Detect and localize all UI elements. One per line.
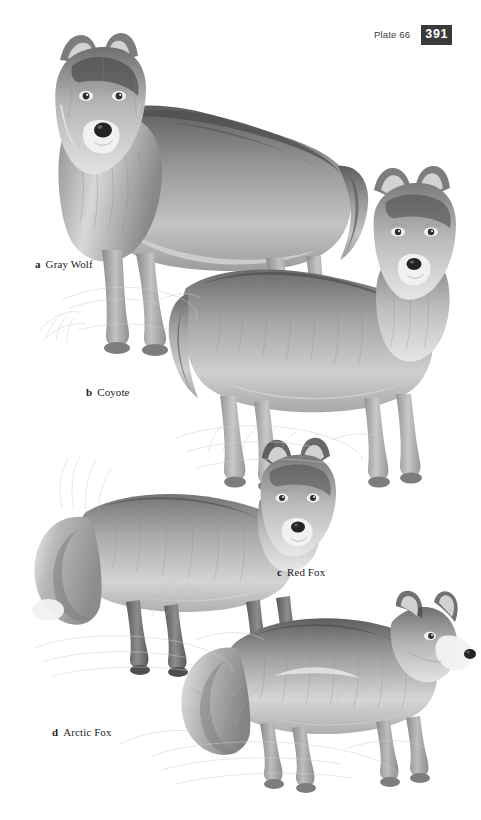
figure-label-red-fox: cRed Fox xyxy=(277,566,325,578)
figure-key-a: a xyxy=(35,258,41,270)
figure-name-arctic-fox: Arctic Fox xyxy=(63,726,111,738)
ground-vegetation-sketch xyxy=(0,0,481,820)
figure-name-coyote: Coyote xyxy=(97,386,129,398)
plate-page: Plate 66 391 xyxy=(0,0,481,820)
figure-label-arctic-fox: dArctic Fox xyxy=(52,726,112,738)
figure-name-red-fox: Red Fox xyxy=(287,566,325,578)
illustration-stage xyxy=(0,0,481,820)
figure-key-d: d xyxy=(52,726,58,738)
figure-label-gray-wolf: aGray Wolf xyxy=(35,258,93,270)
figure-key-c: c xyxy=(277,566,282,578)
figure-key-b: b xyxy=(86,386,92,398)
figure-name-gray-wolf: Gray Wolf xyxy=(46,258,93,270)
figure-label-coyote: bCoyote xyxy=(86,386,130,398)
